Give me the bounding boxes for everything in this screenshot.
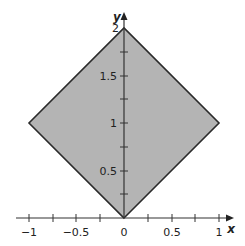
x-axis-arrow-icon xyxy=(226,215,234,222)
region-plot: −1 −0.5 0 0.5 1 0.5 1 1.5 2 x y xyxy=(0,0,245,246)
y-axis-arrow-icon xyxy=(121,12,128,20)
y-axis-label: y xyxy=(113,10,122,24)
x-axis-label: x xyxy=(226,222,236,236)
x-tick-label: 1 xyxy=(216,226,223,239)
x-tick-label: 0.5 xyxy=(163,226,181,239)
y-tick-label: 0.5 xyxy=(100,165,118,178)
x-tick-label: 0 xyxy=(121,226,128,239)
x-tick-label: −1 xyxy=(21,226,37,239)
x-tick-label: −0.5 xyxy=(63,226,90,239)
y-tick-label: 1 xyxy=(110,117,117,130)
y-tick-label: 1.5 xyxy=(100,70,118,83)
